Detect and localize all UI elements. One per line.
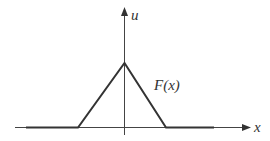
u-axis-label: u (131, 7, 139, 23)
x-axis-arrow-icon (242, 124, 251, 131)
f-curve (26, 63, 214, 128)
curve-label: F(x) (153, 77, 180, 94)
x-axis-label: x (253, 119, 261, 135)
diagram-svg: u F(x) x (0, 0, 270, 141)
diagram-canvas: u F(x) x (0, 0, 270, 141)
u-axis-arrow-icon (121, 7, 128, 16)
